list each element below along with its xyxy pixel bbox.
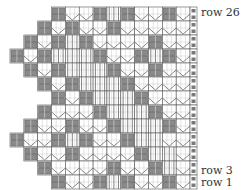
- edge-stitch-icon: [192, 107, 196, 111]
- edge-stitch-icon: [192, 177, 196, 181]
- edge-stitch-icon: [192, 100, 196, 104]
- edge-stitch-icon: [192, 23, 196, 27]
- edge-stitch-icon: [192, 37, 196, 41]
- edge-stitch-icon: [192, 121, 196, 125]
- edge-stitch-icon: [192, 9, 196, 13]
- edge-stitch-icon: [192, 114, 196, 118]
- edge-stitch-icon: [192, 51, 196, 55]
- edge-stitch-icon: [192, 65, 196, 69]
- edge-stitch-icon: [192, 16, 196, 20]
- row-26-label: row 26: [201, 7, 240, 18]
- edge-stitch-icon: [192, 86, 196, 90]
- edge-stitch-icon: [192, 156, 196, 160]
- edge-stitch-icon: [192, 170, 196, 174]
- edge-stitch-icon: [192, 135, 196, 139]
- edge-stitch-icon: [192, 79, 196, 83]
- edge-stitch-icon: [192, 142, 196, 146]
- edge-stitch-icon: [192, 30, 196, 34]
- edge-stitch-icon: [192, 163, 196, 167]
- edge-stitch-icon: [192, 58, 196, 62]
- edge-stitch-icon: [192, 44, 196, 48]
- edge-stitch-icon: [192, 93, 196, 97]
- row-3-label: row 3: [201, 165, 233, 176]
- knitting-chart: [0, 0, 246, 190]
- edge-stitch-icon: [192, 128, 196, 132]
- edge-stitch-icon: [192, 184, 196, 188]
- row-1-label: row 1: [201, 177, 233, 188]
- edge-stitch-icon: [192, 149, 196, 153]
- edge-stitch-icon: [192, 72, 196, 76]
